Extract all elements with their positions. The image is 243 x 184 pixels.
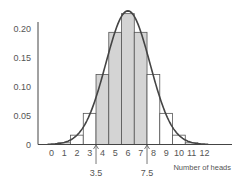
x-tick-label: 4	[100, 148, 105, 158]
x-tick-label: 3	[87, 148, 92, 158]
boundary-label: 3.5	[90, 168, 103, 178]
x-axis-label: Number of heads	[173, 163, 231, 172]
x-tick-label: 10	[174, 148, 184, 158]
bar-2	[71, 135, 84, 144]
bar-10	[173, 135, 186, 144]
bar-8	[147, 74, 160, 144]
x-tick-label: 7	[138, 148, 143, 158]
bar-6	[122, 14, 135, 145]
bar-3	[83, 113, 96, 144]
x-tick-label: 11	[187, 148, 196, 158]
y-tick-label: 0.10	[13, 82, 31, 92]
x-tick-label: 6	[125, 148, 130, 158]
y-tick-label: 0.20	[13, 24, 31, 34]
x-tick-label: 2	[74, 148, 79, 158]
bar-9	[160, 113, 173, 144]
binomial-histogram-chart: 00.050.100.150.20 0123456789101112 3.57.…	[0, 0, 243, 184]
x-tick-label: 9	[164, 148, 169, 158]
boundary-label: 7.5	[141, 168, 154, 178]
x-tick-label: 8	[151, 148, 156, 158]
x-tick-label: 5	[113, 148, 118, 158]
x-tick-label: 12	[199, 148, 209, 158]
x-tick-label: 0	[49, 148, 54, 158]
histogram-bars	[58, 14, 198, 145]
x-tick-label: 1	[62, 148, 67, 158]
bar-5	[109, 32, 122, 144]
y-tick-label: 0	[26, 140, 31, 150]
y-tick-label: 0.05	[13, 111, 31, 121]
bar-7	[134, 32, 147, 144]
x-tick-labels: 0123456789101112	[49, 148, 210, 158]
y-tick-labels: 00.050.100.150.20	[13, 24, 31, 150]
y-tick-label: 0.15	[13, 53, 31, 63]
bar-4	[96, 74, 109, 144]
